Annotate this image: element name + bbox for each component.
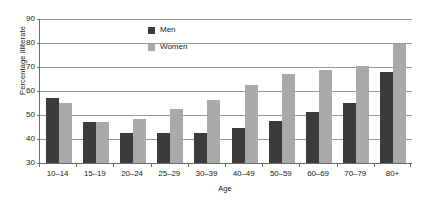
bar-women [170, 109, 183, 163]
x-axis-tick [299, 164, 300, 167]
bar-women [319, 70, 332, 163]
x-axis-tick-label: 15–19 [76, 169, 113, 178]
bar-men [232, 128, 245, 163]
x-axis-tick [374, 164, 375, 167]
bar-men [120, 133, 133, 163]
x-axis-tick [151, 164, 152, 167]
bar-women [96, 122, 109, 163]
x-axis-tick-cell [225, 164, 262, 168]
x-axis-tick-cell [76, 164, 113, 168]
bar-group [114, 19, 151, 163]
bar-women [207, 100, 220, 163]
x-axis-tick-cell [337, 164, 374, 168]
bar-group [375, 19, 412, 163]
y-axis-tick-label: 80 [19, 39, 35, 47]
bar-group [300, 19, 337, 163]
bar-group [226, 19, 263, 163]
y-axis-tick-label: 40 [19, 135, 35, 143]
x-axis-tick-label: 20–24 [113, 169, 150, 178]
bar-men [157, 133, 170, 163]
bar-women [59, 103, 72, 163]
legend-entry-men: Men [148, 26, 228, 34]
x-axis-tick [262, 164, 263, 167]
x-axis-title: Age [39, 184, 411, 193]
legend-entry-women: Women [148, 43, 228, 51]
x-axis-tick-cell [188, 164, 225, 168]
bar-group [40, 19, 77, 163]
y-axis-tick-label: 60 [19, 87, 35, 95]
bar-women [245, 85, 258, 163]
x-axis-tick-cell [299, 164, 336, 168]
bar-men [306, 112, 319, 163]
x-axis-tick-marks [39, 164, 411, 168]
y-axis-tick-label: 90 [19, 15, 35, 23]
x-axis-tick-cell [262, 164, 299, 168]
y-axis-tick-label: 30 [19, 159, 35, 167]
x-axis-tick [39, 164, 40, 167]
x-axis-tick-label: 40–49 [225, 169, 262, 178]
x-axis-tick-label: 50–59 [262, 169, 299, 178]
x-axis-tick [225, 164, 226, 167]
x-axis-tick [188, 164, 189, 167]
bar-group [338, 19, 375, 163]
x-axis-tick [113, 164, 114, 167]
x-axis-tick-label: 80+ [374, 169, 411, 178]
legend-swatch-men-icon [148, 27, 155, 34]
bar-group [77, 19, 114, 163]
bar-women [282, 74, 295, 163]
x-axis-tick-label: 10–14 [39, 169, 76, 178]
bar-men [194, 133, 207, 163]
x-axis-tick-cell [113, 164, 150, 168]
legend-label-men: Men [160, 26, 176, 34]
x-axis-tick-cell [374, 164, 411, 168]
x-axis-tick-label: 60–69 [299, 169, 336, 178]
x-axis-tick-labels: 10–1415–1920–2425–2930–3940–4950–5960–69… [39, 169, 411, 178]
bar-men [83, 122, 96, 163]
y-axis-tick-label: 50 [19, 111, 35, 119]
bar-men [46, 98, 59, 163]
y-axis-tick-label: 70 [19, 63, 35, 71]
bar-women [356, 66, 369, 163]
bar-men [269, 121, 282, 163]
x-axis-tick-label: 70–79 [337, 169, 374, 178]
x-axis-tick [76, 164, 77, 167]
legend-swatch-women-icon [148, 44, 155, 51]
x-axis-tick-label: 25–29 [151, 169, 188, 178]
x-axis-tick-cell [39, 164, 76, 168]
legend-label-women: Women [160, 43, 187, 51]
x-axis-tick-label: 30–39 [188, 169, 225, 178]
bar-women [393, 44, 406, 163]
x-axis-tick [410, 164, 411, 167]
bar-men [343, 103, 356, 163]
bar-women [133, 119, 146, 163]
bar-men [380, 72, 393, 163]
x-axis-tick [337, 164, 338, 167]
bar-chart: Percentage Illiterate 30405060708090 10–… [0, 0, 421, 206]
x-axis-tick-cell [151, 164, 188, 168]
chart-legend: Men Women [148, 26, 228, 60]
y-axis-tick-labels: 30405060708090 [19, 19, 35, 163]
bar-group [263, 19, 300, 163]
